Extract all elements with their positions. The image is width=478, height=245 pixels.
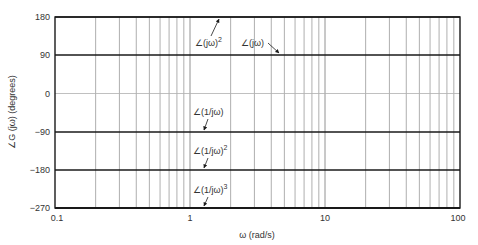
svg-text:∠(1/jω)3: ∠(1/jω)3	[193, 183, 228, 195]
svg-text:0: 0	[45, 89, 50, 99]
x-tick-labels: 0.1 1 10 100	[51, 213, 466, 223]
svg-text:90: 90	[40, 50, 50, 60]
svg-text:180: 180	[35, 12, 50, 22]
svg-text:∠(1/jω): ∠(1/jω)	[193, 107, 224, 117]
x-axis-label: ω (rad/s)	[239, 230, 275, 240]
svg-text:0.1: 0.1	[51, 213, 64, 223]
y-tick-labels: 180 90 0 −90 −180 −270	[30, 12, 50, 213]
annotation-jw: ∠(jω)	[241, 38, 279, 53]
svg-text:−180: −180	[30, 165, 50, 175]
annotations: ∠(jω)2 ∠(jω) ∠(1/jω) ∠(1/jω)2 ∠(1/jω)3	[193, 19, 279, 206]
svg-text:−90: −90	[35, 127, 50, 137]
y-axis-label: ∠G (jω) (degrees)	[7, 75, 17, 149]
svg-text:∠(jω)2: ∠(jω)2	[195, 36, 222, 48]
annotation-jw2: ∠(jω)2	[195, 19, 222, 48]
vertical-gridlines	[96, 17, 454, 208]
annotation-inv-jw3: ∠(1/jω)3	[193, 183, 228, 206]
svg-text:100: 100	[450, 213, 465, 223]
annotation-inv-jw2: ∠(1/jω)2	[193, 144, 228, 168]
annotation-inv-jw: ∠(1/jω)	[193, 107, 224, 130]
svg-text:1: 1	[187, 213, 192, 223]
svg-text:−270: −270	[30, 203, 50, 213]
bode-phase-chart: 180 90 0 −90 −180 −270 0.1 1 10 100 ω (r…	[0, 0, 478, 245]
svg-text:∠(jω): ∠(jω)	[241, 38, 264, 48]
svg-text:∠(1/jω)2: ∠(1/jω)2	[193, 144, 228, 156]
svg-text:10: 10	[320, 213, 330, 223]
